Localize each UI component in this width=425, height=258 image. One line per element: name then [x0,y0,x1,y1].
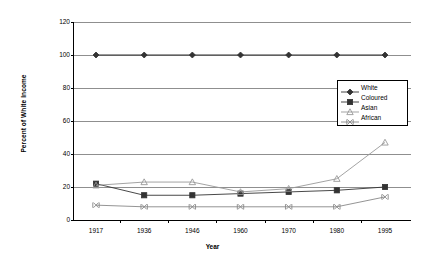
income-chart: Percent of White Income Year 02040608010… [0,0,425,258]
x-axis-tick-mark [120,220,121,223]
legend-marker-open-triangle-icon [340,103,360,113]
x-axis-tick-mark [361,220,362,223]
legend: WhiteColouredAsianAfrican [337,80,408,126]
series-asian [93,139,388,194]
legend-label: Asian [360,103,377,113]
x-axis-tick-mark [313,220,314,223]
x-axis-tick-label: 1980 [317,227,357,234]
y-axis-tick-label: 80 [40,84,70,91]
legend-label: African [360,113,381,123]
x-axis-tick-label: 1946 [172,227,212,234]
series-white [93,52,388,58]
x-axis-tick-label: 1970 [269,227,309,234]
y-axis-tick-label: 120 [40,18,70,25]
legend-item-asian[interactable]: Asian [340,103,405,113]
x-axis-tick-mark [216,220,217,223]
legend-marker-filled-square-icon [340,93,360,103]
x-axis-tick-label: 1917 [76,227,116,234]
legend-item-african[interactable]: African [340,113,405,123]
y-axis-tick-label: 0 [40,216,70,223]
y-axis-title: Percent of White Income [20,44,27,184]
y-axis-tick-label: 100 [40,51,70,58]
legend-label: White [360,83,378,93]
y-axis-tick-mark [71,220,74,221]
y-axis-tick-label: 20 [40,183,70,190]
legend-item-coloured[interactable]: Coloured [340,93,405,103]
x-axis-tick-label: 1936 [124,227,164,234]
x-axis-tick-label: 1960 [221,227,261,234]
y-axis-tick-label: 40 [40,150,70,157]
x-axis-tick-mark [168,220,169,223]
legend-item-white[interactable]: White [340,83,405,93]
y-axis-tick-label: 60 [40,117,70,124]
x-axis-title: Year [0,243,425,250]
x-axis-tick-mark [265,220,266,223]
x-axis-tick-label: 1995 [365,227,405,234]
legend-marker-x-cross-icon [340,113,360,123]
legend-marker-filled-diamond-icon [340,83,360,93]
legend-label: Coloured [360,93,387,103]
